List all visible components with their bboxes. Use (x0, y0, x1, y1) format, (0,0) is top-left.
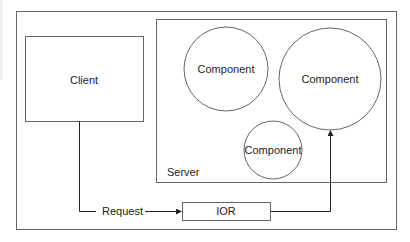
ior-box: IOR (183, 203, 271, 221)
request-label: Request (102, 205, 143, 217)
client-label: Client (70, 74, 98, 86)
client-box: Client (26, 37, 144, 122)
component-2-label: Component (302, 73, 359, 85)
client-connector-line (80, 121, 97, 212)
component-2: Component (279, 28, 381, 130)
corba-diagram: Client Server Component Component Compon… (0, 0, 410, 242)
server-label: Server (167, 166, 200, 178)
component-3-label: Component (245, 144, 302, 156)
component-3: Component (244, 121, 302, 179)
component-1: Component (184, 27, 268, 111)
ior-label: IOR (216, 205, 236, 217)
component-1-label: Component (198, 63, 255, 75)
